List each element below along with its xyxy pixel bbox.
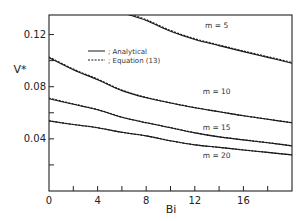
- curve-label: m = 20: [203, 151, 231, 160]
- x-tick-label: 16: [237, 195, 250, 206]
- y-tick-label: 0.04: [24, 133, 46, 144]
- x-tick-label: 8: [143, 195, 149, 206]
- curve-label: m = 5: [205, 21, 228, 30]
- equation13-curve: [49, 57, 292, 123]
- y-tick-label: 0.12: [24, 29, 46, 40]
- legend-label-equation13: ; Equation (13): [108, 57, 160, 65]
- curves: [49, 14, 292, 155]
- analytical-curve: [49, 121, 292, 155]
- curve-label: m = 10: [203, 87, 231, 96]
- analytical-curve: [49, 99, 292, 146]
- chart: 04812160.040.080.12 m = 5m = 10m = 15m =…: [0, 0, 307, 221]
- x-tick-label: 0: [46, 195, 52, 206]
- x-tick-label: 12: [188, 195, 201, 206]
- analytical-curve: [49, 58, 292, 123]
- legend-label-analytical: ; Analytical: [108, 48, 147, 56]
- equation13-curve: [49, 98, 292, 146]
- curve-label: m = 15: [203, 123, 231, 132]
- legend: ; Analytical; Equation (13): [88, 48, 160, 65]
- y-tick-label: 0.08: [24, 81, 46, 92]
- x-tick-label: 4: [94, 195, 100, 206]
- x-axis-title: Bi: [166, 203, 177, 216]
- y-axis-title: V*: [13, 63, 27, 76]
